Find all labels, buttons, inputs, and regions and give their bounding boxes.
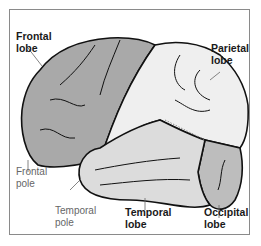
label-frontal-pole: Frontalpole bbox=[16, 166, 47, 190]
label-occipital-lobe: Occipitallobe bbox=[204, 206, 248, 230]
label-parietal-lobe: Parietallobe bbox=[211, 42, 249, 66]
label-frontal-lobe: Frontallobe bbox=[16, 30, 52, 54]
label-temporal-pole: Temporalpole bbox=[55, 205, 96, 229]
label-temporal-lobe: Temporallobe bbox=[125, 206, 171, 230]
